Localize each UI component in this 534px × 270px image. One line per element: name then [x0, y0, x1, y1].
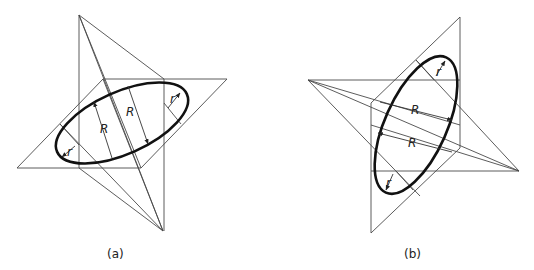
- label-R2-a: R: [100, 122, 108, 136]
- label-r2-a: r: [67, 145, 73, 159]
- figure-a: R R r r (a): [17, 15, 227, 261]
- rhombus-b: [371, 17, 460, 233]
- caption-a: (a): [107, 247, 124, 261]
- caption-b: (b): [404, 247, 421, 261]
- apex-line-b4: [371, 125, 519, 171]
- figure-b: R R r r (b): [308, 17, 519, 261]
- label-R2-b: R: [408, 136, 416, 150]
- label-R1-a: R: [126, 105, 134, 119]
- apex-line-a6: [60, 124, 163, 231]
- apex-line-b2: [308, 80, 519, 171]
- rhombus-a: [17, 79, 227, 168]
- ellipse-b: [358, 45, 475, 205]
- ellipse-a: [45, 66, 200, 180]
- label-R1-b: R: [411, 103, 419, 117]
- diagram-canvas: R R r r (a) R R r r (b): [0, 0, 534, 270]
